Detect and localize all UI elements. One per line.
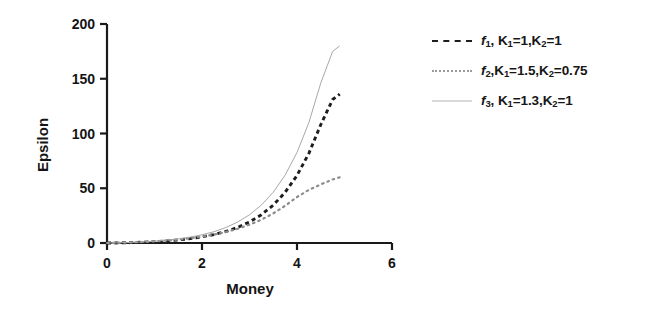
legend-entry-f3: f3, K1=1.3,K2=1 xyxy=(432,86,662,116)
y-tick-label: 100 xyxy=(72,126,96,142)
y-tick-label: 0 xyxy=(87,235,95,251)
legend-entry-f1: f1, K1=1,K2=1 xyxy=(432,26,662,56)
y-tick-label: 150 xyxy=(72,71,96,87)
legend-label-f1: f1, K1=1,K2=1 xyxy=(481,33,562,49)
x-axis-title: Money xyxy=(226,280,274,297)
legend-line-sample-dashed xyxy=(432,35,472,47)
legend-line-sample-solid xyxy=(432,95,472,107)
y-tick-label: 50 xyxy=(79,180,95,196)
legend-label-f3: f3, K1=1.3,K2=1 xyxy=(481,93,573,109)
x-tick-label: 0 xyxy=(103,255,111,271)
legend-label-f2: f2,K1=1.5,K2=0.75 xyxy=(481,63,588,79)
legend-line-sample-dotted xyxy=(432,65,472,77)
x-tick-label: 4 xyxy=(293,255,301,271)
legend-entry-f2: f2,K1=1.5,K2=0.75 xyxy=(432,56,662,86)
x-tick-label: 6 xyxy=(388,255,396,271)
y-tick-label: 200 xyxy=(72,16,96,32)
y-axis-title: Epsilon xyxy=(34,118,51,172)
chart-figure: 050100150200 0246 Epsilon Money f1, K1=1… xyxy=(0,0,667,312)
series-line-2 xyxy=(107,177,340,243)
y-axis-tick-labels: 050100150200 xyxy=(72,16,96,251)
x-tick-label: 2 xyxy=(198,255,206,271)
chart-legend: f1, K1=1,K2=1 f2,K1=1.5,K2=0.75 f3, K1=1… xyxy=(432,26,662,116)
data-series-group xyxy=(107,46,340,243)
x-axis-tick-labels: 0246 xyxy=(103,255,396,271)
series-line-3 xyxy=(107,46,340,243)
series-line-1 xyxy=(107,94,340,243)
